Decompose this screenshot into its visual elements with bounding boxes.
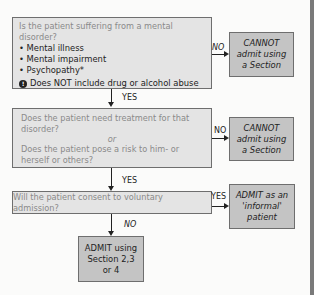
question-mental-disorder: Is the patient suffering from a mental d… (19, 21, 205, 43)
list-item: • Mental illness (19, 43, 205, 54)
question-mental-disorder-box: Is the patient suffering from a mental d… (12, 17, 212, 89)
admit-informal-box: ADMIT as an 'informal' patient (229, 184, 295, 229)
connector (111, 214, 112, 232)
connector (111, 89, 112, 103)
question-treatment-risk-box: Does the patient need treatment for that… (12, 108, 212, 168)
no-label: NO (212, 43, 224, 52)
admit-section-box: ADMIT using Section 2,3 or 4 (78, 236, 144, 282)
warning-note: !Does NOT include drug or alcohol abuse (19, 78, 205, 89)
cannot-admit-box-2: CANNOT admit using a Section (229, 117, 294, 161)
no-label: NO (124, 220, 136, 229)
warning-icon: ! (19, 80, 27, 88)
arrow-down-icon (108, 102, 114, 107)
connector (111, 168, 112, 187)
list-item: • Psychopathy* (19, 65, 205, 76)
no-label: NO (214, 126, 226, 135)
question-consent-box: Will the patient consent to voluntary ad… (12, 191, 212, 214)
cannot-admit-box-1: CANNOT admit using a Section (229, 32, 294, 77)
yes-label: YES (122, 93, 137, 102)
yes-label: YES (122, 176, 137, 185)
page-edge-bar (310, 0, 314, 295)
list-item: • Mental impairment (19, 54, 205, 65)
yes-label: YES (211, 192, 226, 201)
disorder-list: • Mental illness • Mental impairment • P… (19, 43, 205, 76)
